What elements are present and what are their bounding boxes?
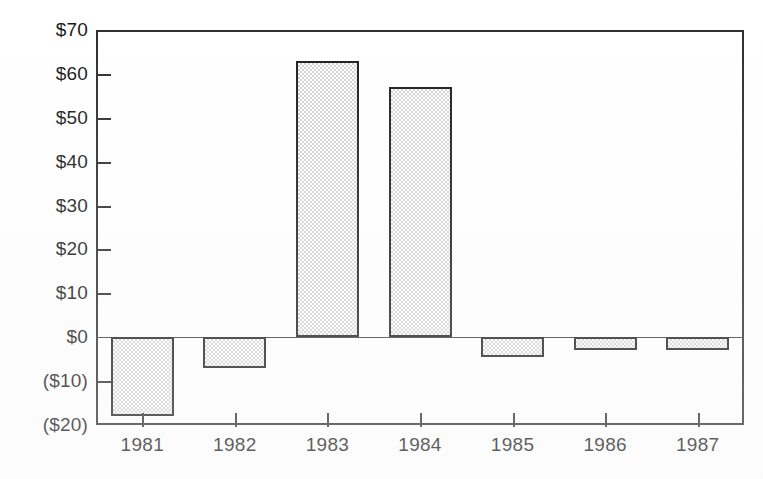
x-axis-label: 1985 bbox=[473, 434, 553, 455]
y-axis-label: $50 bbox=[0, 108, 88, 127]
y-axis-label: $60 bbox=[0, 64, 88, 83]
x-axis-label: 1987 bbox=[658, 434, 738, 455]
y-axis-label: ($10) bbox=[0, 371, 88, 390]
y-axis-tick bbox=[98, 118, 111, 120]
x-axis-tick bbox=[698, 413, 700, 427]
bar-1984[interactable] bbox=[389, 87, 452, 337]
y-axis-label: $70 bbox=[0, 20, 88, 39]
x-axis-label: 1984 bbox=[380, 434, 460, 455]
bar-1986[interactable] bbox=[574, 337, 637, 350]
x-axis-tick bbox=[605, 413, 607, 427]
y-axis-tick bbox=[98, 206, 111, 208]
y-axis-label-text: $70 bbox=[2, 20, 88, 39]
zero-baseline bbox=[96, 337, 744, 338]
y-axis-label: $0 bbox=[0, 327, 88, 346]
x-axis-tick bbox=[513, 413, 515, 427]
x-axis-label: 1986 bbox=[565, 434, 645, 455]
x-axis-tick bbox=[142, 413, 144, 427]
y-axis-label: $40 bbox=[0, 152, 88, 171]
x-axis-tick bbox=[327, 413, 329, 427]
y-axis-label: $30 bbox=[0, 196, 88, 215]
bar-1983[interactable] bbox=[296, 61, 359, 338]
y-axis-label-text: $40 bbox=[2, 152, 88, 171]
bar-chart: $70$60$50$40$30$20$10$0($10)($20) 198119… bbox=[0, 0, 763, 479]
y-axis-tick bbox=[98, 74, 111, 76]
y-axis-tick bbox=[98, 162, 111, 164]
y-axis-tick bbox=[98, 293, 111, 295]
y-axis-label: $20 bbox=[0, 239, 88, 258]
x-axis-label: 1982 bbox=[195, 434, 275, 455]
y-axis-label-text: ($10) bbox=[2, 371, 88, 390]
y-axis-label-text: $0 bbox=[2, 327, 88, 346]
y-axis-label-text: $30 bbox=[2, 196, 88, 215]
y-axis-label: ($20) bbox=[0, 415, 88, 434]
y-axis-label-text: $10 bbox=[2, 283, 88, 302]
x-axis-label: 1981 bbox=[102, 434, 182, 455]
y-axis-label-text: ($20) bbox=[2, 415, 88, 434]
y-axis-label: $10 bbox=[0, 283, 88, 302]
bar-1981[interactable] bbox=[111, 337, 174, 416]
x-axis-label: 1983 bbox=[287, 434, 367, 455]
y-axis-label-text: $50 bbox=[2, 108, 88, 127]
x-axis-tick bbox=[235, 413, 237, 427]
x-axis-tick bbox=[420, 413, 422, 427]
y-axis-tick bbox=[98, 249, 111, 251]
y-axis-label-text: $20 bbox=[2, 239, 88, 258]
bar-1987[interactable] bbox=[666, 337, 729, 350]
y-axis-label-text: $60 bbox=[2, 64, 88, 83]
bar-1982[interactable] bbox=[203, 337, 266, 368]
y-axis-tick bbox=[98, 381, 111, 383]
bar-1985[interactable] bbox=[481, 337, 544, 357]
